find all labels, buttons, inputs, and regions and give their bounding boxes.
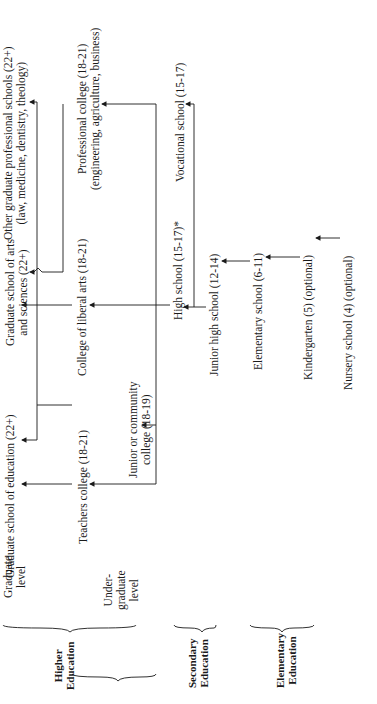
node-nursery-school: Nursery school (4) (optional) <box>342 256 355 390</box>
node-high-school: High school (15-17)* <box>172 221 185 320</box>
node-college-liberal-arts: College of liberal arts (18-21) <box>76 239 89 376</box>
higher-education-label: Higher Education <box>52 642 76 690</box>
elementary-education-label: Elementary Education <box>274 633 298 688</box>
node-grad-school-arts-sciences: Graduate school of arts and sciences (22… <box>4 239 30 346</box>
flow-connectors <box>0 0 377 704</box>
node-teachers-college: Teachers college (18-21) <box>77 430 90 544</box>
level-braces <box>3 625 314 681</box>
undergraduate-level-label: Under- graduate level <box>102 570 141 610</box>
secondary-education-label: Secondary Education <box>186 639 210 689</box>
node-grad-school-of-education: Graduate school of education (22+) <box>4 414 17 578</box>
node-junior-community-college: Junior or community college (18-19) <box>127 382 153 478</box>
node-other-grad-professional-schools: Other graduate professional schools (22+… <box>2 46 28 240</box>
node-junior-high-school: Junior high school (12-14) <box>208 254 221 376</box>
node-elementary-school: Elementary school (6-11) <box>252 253 265 370</box>
node-kindergarten: Kindergarten (5) (optional) <box>302 255 315 380</box>
node-professional-college: Professional college (18-21) (engineerin… <box>76 28 102 190</box>
node-vocational-school: Vocational school (15-17) <box>174 63 187 182</box>
